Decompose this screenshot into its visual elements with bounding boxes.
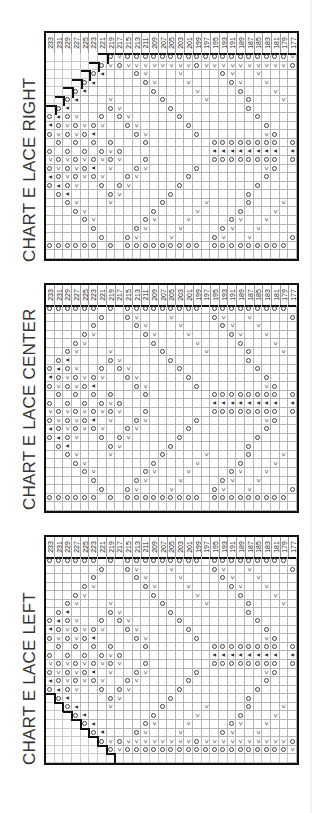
sk2p-icon: ▲ — [245, 651, 254, 660]
knit-cell — [271, 617, 280, 626]
row-number: 193 — [220, 285, 229, 305]
yarn-over-icon — [184, 305, 193, 314]
knit-cell — [245, 365, 254, 374]
yarn-over-icon — [107, 139, 116, 148]
knit-cell — [98, 165, 107, 174]
row-number: 233 — [46, 285, 55, 305]
no-stitch-cell — [55, 754, 64, 763]
knit-cell — [89, 442, 98, 451]
no-stitch-cell — [46, 720, 55, 729]
no-stitch-cell — [63, 79, 72, 88]
knit-cell — [176, 591, 185, 600]
k2tog-icon: < — [107, 348, 116, 357]
knit-cell — [184, 96, 193, 105]
knit-cell — [202, 130, 211, 139]
yarn-over-icon — [81, 583, 90, 592]
knit-cell — [184, 382, 193, 391]
yarn-over-icon — [89, 626, 98, 635]
knit-cell — [159, 130, 168, 139]
yarn-over-icon — [89, 139, 98, 148]
knit-cell — [176, 356, 185, 365]
knit-cell — [280, 156, 289, 165]
k2tog-icon: < — [133, 374, 142, 383]
yarn-over-icon — [176, 557, 185, 566]
knit-cell — [210, 365, 219, 374]
yarn-over-icon — [72, 643, 81, 652]
yarn-over-icon — [81, 242, 90, 251]
knit-cell — [107, 686, 116, 695]
yarn-over-icon — [254, 557, 263, 566]
knit-cell — [254, 626, 263, 635]
yarn-over-icon — [167, 494, 176, 503]
knit-cell — [202, 374, 211, 383]
k2tog-icon: < — [202, 703, 211, 712]
knit-cell — [288, 557, 297, 566]
knit-cell — [184, 87, 193, 96]
knit-cell — [115, 225, 124, 234]
knit-cell — [184, 408, 193, 417]
knit-cell — [193, 617, 202, 626]
yarn-over-icon — [280, 242, 289, 251]
knit-cell — [159, 156, 168, 165]
knit-cell — [81, 113, 90, 122]
yarn-over-icon — [219, 139, 228, 148]
knit-cell — [280, 79, 289, 88]
yarn-over-icon — [133, 417, 142, 426]
sk2p-icon: ▲ — [89, 130, 98, 139]
row-number-header: 2332312292272252232212192172152132112092… — [46, 285, 297, 307]
row-number: 225 — [81, 537, 90, 557]
knit-cell — [150, 626, 159, 635]
yarn-over-icon — [141, 408, 150, 417]
knit-cell — [46, 314, 55, 323]
k2tog-icon: < — [81, 374, 90, 383]
k2tog-icon: < — [280, 96, 289, 105]
knit-cell — [133, 331, 142, 340]
knit-cell — [98, 216, 107, 225]
knit-cell — [89, 459, 98, 468]
knit-cell — [115, 348, 124, 357]
no-stitch-cell — [193, 754, 202, 763]
stitch-grid: <<<<<<<<<<<<<<<<<<<<▲<▲<<▲<<<<<<▲<<<▲▲▲▲… — [46, 305, 297, 511]
k2tog-icon: < — [98, 374, 107, 383]
k2tog-icon: < — [271, 62, 280, 71]
yarn-over-icon — [236, 591, 245, 600]
knit-cell — [245, 382, 254, 391]
knit-cell — [98, 574, 107, 583]
yarn-over-icon — [219, 494, 228, 503]
yarn-over-icon — [72, 557, 81, 566]
yarn-over-icon — [46, 382, 55, 391]
knit-cell — [176, 139, 185, 148]
knit-cell — [124, 79, 133, 88]
knit-cell — [81, 694, 90, 703]
knit-cell — [245, 583, 254, 592]
knit-cell — [81, 477, 90, 486]
yarn-over-icon — [254, 643, 263, 652]
no-stitch-cell — [89, 754, 98, 763]
yarn-over-icon — [81, 669, 90, 678]
k2tog-icon: < — [219, 314, 228, 323]
knit-cell — [184, 608, 193, 617]
knit-cell — [228, 686, 237, 695]
yarn-over-icon — [46, 417, 55, 426]
knit-cell — [81, 608, 90, 617]
row-number: 215 — [124, 285, 133, 305]
yarn-over-icon — [193, 746, 202, 755]
knit-cell — [236, 434, 245, 443]
knit-cell — [159, 356, 168, 365]
knit-cell — [176, 634, 185, 643]
yarn-over-icon — [133, 574, 142, 583]
knit-cell — [184, 459, 193, 468]
knit-cell — [133, 216, 142, 225]
yarn-over-icon — [228, 643, 237, 652]
yarn-over-icon — [124, 557, 133, 566]
k2tog-icon: < — [245, 62, 254, 71]
knit-cell — [167, 139, 176, 148]
knit-cell — [202, 634, 211, 643]
sk2p-icon: ▲ — [55, 686, 64, 695]
yarn-over-icon — [141, 720, 150, 729]
knit-cell — [245, 686, 254, 695]
knit-cell — [245, 87, 254, 96]
knit-cell — [141, 374, 150, 383]
chart-title: CHART E LACE LEFT — [20, 592, 40, 765]
knit-cell — [193, 600, 202, 609]
